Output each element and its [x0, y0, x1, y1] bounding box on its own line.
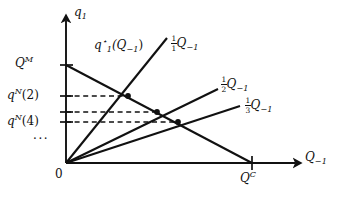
tick-label-q-competitive: QC — [240, 172, 256, 184]
intersection-nash-4 — [175, 119, 181, 125]
tick-label-q-monopoly: QM — [15, 57, 33, 69]
ray-slope-1 — [66, 38, 167, 163]
ellipsis-label: ··· — [33, 133, 49, 145]
ray-slope-one-third — [66, 106, 240, 163]
intersection-nash-2 — [125, 93, 131, 99]
plot-canvas — [0, 0, 341, 203]
origin-label: 0 — [55, 168, 63, 180]
tick-label-q-nash-4: qN(4) — [7, 115, 39, 127]
ray-label-slope-1: 11Q−1 — [171, 35, 198, 52]
x-axis-label: Q−1 — [305, 151, 327, 163]
ray-label-slope-one-third: 13Q−1 — [245, 97, 272, 114]
tick-label-q-nash-2: qN(2) — [7, 89, 39, 101]
y-axis-label: q1 — [74, 6, 87, 18]
ray-label-slope-one-half: 12Q−1 — [221, 76, 248, 93]
economics-figure: q1 Q−1 0 QM qN(2) qN(4) ··· QC q⋆1(Q−1) … — [0, 0, 341, 203]
intersection-nash-3 — [154, 109, 160, 115]
ray-slope-one-half — [66, 89, 218, 163]
curve-label-best-response: q⋆1(Q−1) — [94, 39, 143, 51]
